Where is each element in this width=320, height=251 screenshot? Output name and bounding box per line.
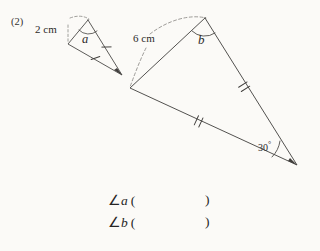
large-triangle-right-arrow: [288, 158, 297, 165]
small-triangle-outline: [68, 20, 122, 75]
small-triangle-dashed-leader: [70, 16, 89, 19]
answer-row-a[interactable]: ∠a(: [108, 192, 135, 209]
large-triangle-group: [130, 17, 297, 165]
angle-symbol-a: ∠: [108, 193, 121, 208]
large-triangle-ticks-bottom: [194, 116, 203, 127]
large-triangle-dashed-leader: [130, 48, 146, 87]
angle-30-label: 30°: [258, 141, 271, 153]
answer-close-paren-a: ): [205, 192, 210, 208]
angle-symbol-b: ∠: [108, 215, 121, 230]
answer-row-b[interactable]: ∠b(: [108, 214, 135, 231]
geometry-figure: [0, 0, 320, 251]
angle-30-value: 30: [258, 142, 268, 153]
answer-variable-b: b: [121, 215, 128, 230]
large-triangle-side-label: 6 cm: [133, 33, 155, 44]
angle-30-arc: [272, 141, 280, 157]
small-triangle-group: [68, 16, 122, 75]
large-triangle-ticks-right: [239, 82, 250, 92]
answer-variable-a: a: [121, 193, 128, 208]
small-triangle-side-label: 2 cm: [35, 24, 57, 35]
answer-open-paren-b: (: [131, 215, 136, 230]
worksheet-page: (2) 2 cm a 6 cm b 30° ∠a( ) ∠b( ): [0, 0, 320, 251]
question-number: (2): [11, 17, 23, 28]
answer-open-paren-a: (: [131, 193, 136, 208]
answer-close-paren-b: ): [205, 214, 210, 230]
large-triangle-outline: [130, 18, 297, 165]
angle-b-label: b: [198, 33, 205, 46]
degree-symbol: °: [268, 140, 271, 149]
angle-a-label: a: [82, 33, 88, 46]
